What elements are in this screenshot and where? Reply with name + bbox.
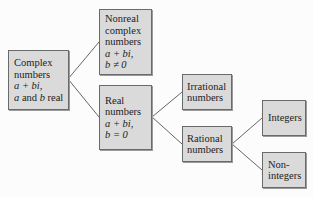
- node-integers: Integers: [262, 100, 306, 136]
- node-rational-numbers: Rational numbers: [182, 126, 232, 162]
- edge-complex-nonreal: [68, 42, 99, 79]
- node-label: numbers: [105, 36, 151, 48]
- node-label: numbers: [187, 92, 231, 104]
- edge-real-rational: [152, 117, 182, 144]
- node-label: Integers: [268, 112, 305, 124]
- node-label: complex: [105, 25, 151, 37]
- node-label: numbers: [187, 144, 231, 156]
- node-complex-numbers: Complex numbers a + bi, a and b real: [8, 50, 69, 110]
- node-label: integers: [268, 170, 305, 182]
- node-label: Non-: [268, 159, 305, 171]
- node-label: Rational: [187, 133, 231, 145]
- node-condition: b ≠ 0: [105, 59, 151, 71]
- edge-rational-nonintegers: [232, 144, 262, 170]
- node-condition: a and b real: [14, 92, 68, 104]
- node-formula: a + bi,: [105, 118, 151, 130]
- node-label: numbers: [14, 69, 68, 81]
- node-label: Irrational: [187, 81, 231, 93]
- node-label: Real: [105, 95, 151, 107]
- node-label: numbers: [105, 106, 151, 118]
- node-real-numbers: Real numbers a + bi, b = 0: [99, 85, 152, 150]
- node-irrational-numbers: Irrational numbers: [182, 74, 232, 110]
- node-formula: a + bi,: [105, 48, 151, 60]
- edge-rational-integers: [232, 118, 262, 144]
- text-real: real: [45, 92, 63, 103]
- node-nonreal-complex-numbers: Nonreal complex numbers a + bi, b ≠ 0: [99, 9, 152, 75]
- node-label: Nonreal: [105, 13, 151, 25]
- node-label: Complex: [14, 57, 68, 69]
- edge-complex-real: [68, 79, 99, 117]
- node-nonintegers: Non- integers: [262, 152, 306, 188]
- node-formula: a + bi,: [14, 80, 68, 92]
- node-condition: b = 0: [105, 129, 151, 141]
- number-classification-diagram: Complex numbers a + bi, a and b real Non…: [0, 0, 313, 198]
- edge-real-irrational: [152, 92, 182, 117]
- text-and: and: [19, 92, 39, 103]
